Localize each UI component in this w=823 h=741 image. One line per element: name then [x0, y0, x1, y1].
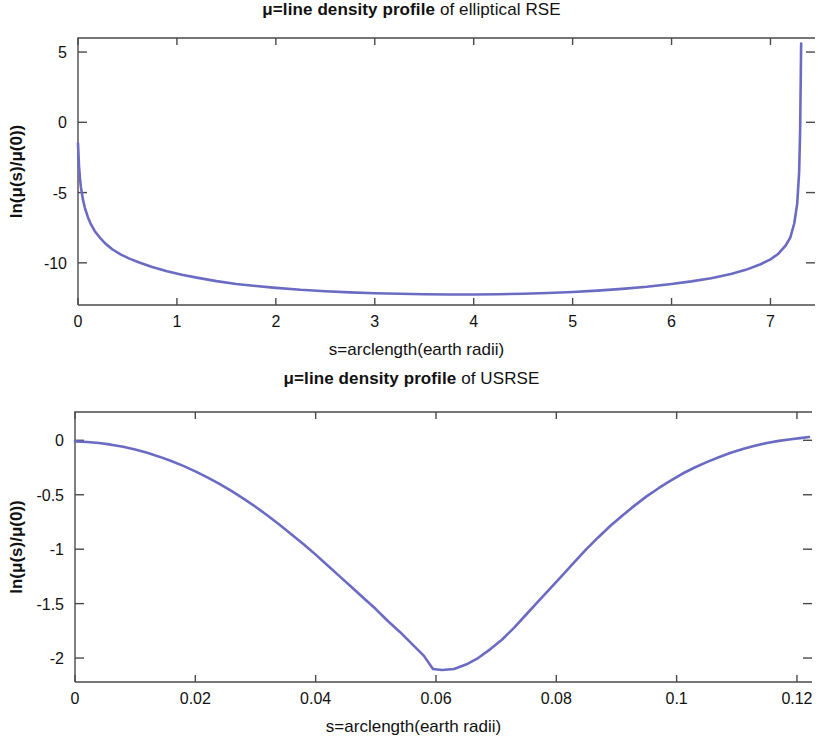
y-tick-label-elliptical-rse-3: -10	[44, 255, 67, 272]
x-tick-label-usrse-6: 0.12	[781, 690, 812, 707]
plot-frame-usrse	[75, 412, 812, 682]
x-tick-label-elliptical-rse-4: 4	[469, 313, 478, 330]
y-tick-label-elliptical-rse-2: -5	[53, 185, 67, 202]
data-series-elliptical-rse	[78, 44, 801, 295]
y-tick-label-usrse-0: 0	[55, 432, 64, 449]
plot-area-usrse: 00.020.040.060.080.10.120-0.5-1-1.5-2s=a…	[0, 369, 823, 741]
plot-frame-elliptical-rse	[78, 38, 815, 305]
x-tick-label-elliptical-rse-1: 1	[172, 313, 181, 330]
x-tick-label-usrse-3: 0.06	[420, 690, 451, 707]
x-tick-label-elliptical-rse-2: 2	[271, 313, 280, 330]
x-tick-label-elliptical-rse-0: 0	[74, 313, 83, 330]
y-tick-label-usrse-4: -2	[50, 650, 64, 667]
x-axis-label-usrse: s=arclength(earth radii)	[326, 717, 501, 736]
x-tick-label-usrse-1: 0.02	[180, 690, 211, 707]
chart-figure-elliptical-rse: μ=line density profile of elliptical RSE…	[0, 0, 823, 372]
y-tick-label-elliptical-rse-1: 0	[58, 114, 67, 131]
chart-figure-usrse: μ=line density profile of USRSE 00.020.0…	[0, 369, 823, 741]
x-tick-label-usrse-4: 0.08	[541, 690, 572, 707]
y-tick-label-usrse-1: -0.5	[36, 487, 64, 504]
y-tick-label-elliptical-rse-0: 5	[58, 44, 67, 61]
y-tick-label-usrse-3: -1.5	[36, 596, 64, 613]
x-tick-label-elliptical-rse-5: 5	[568, 313, 577, 330]
x-tick-label-elliptical-rse-7: 7	[766, 313, 775, 330]
x-tick-label-usrse-5: 0.1	[666, 690, 688, 707]
data-series-usrse	[75, 437, 809, 670]
plot-area-elliptical-rse: 0123456750-5-10s=arclength(earth radii)l…	[0, 0, 823, 372]
x-tick-label-usrse-0: 0	[71, 690, 80, 707]
x-tick-label-elliptical-rse-6: 6	[667, 313, 676, 330]
x-axis-label-elliptical-rse: s=arclength(earth radii)	[329, 340, 504, 359]
y-tick-label-usrse-2: -1	[50, 541, 64, 558]
y-axis-label-usrse: ln(μ(s)/μ(0))	[7, 500, 26, 594]
x-tick-label-elliptical-rse-3: 3	[370, 313, 379, 330]
y-axis-label-elliptical-rse: ln(μ(s)/μ(0))	[7, 125, 26, 219]
x-tick-label-usrse-2: 0.04	[300, 690, 331, 707]
